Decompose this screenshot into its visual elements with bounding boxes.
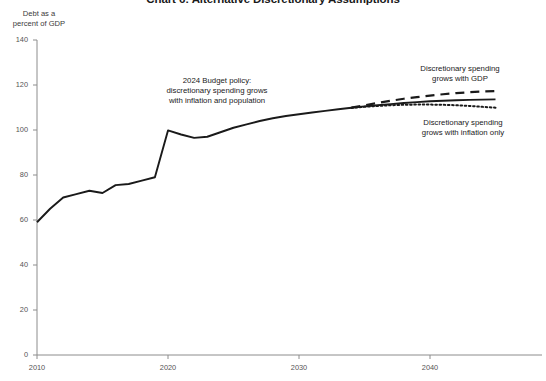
annotation-inflation: Discretionary spending grows with inflat… bbox=[388, 118, 538, 138]
y-tick-label: 100 bbox=[2, 125, 28, 134]
annotation-budget-policy: 2024 Budget policy: discretionary spendi… bbox=[122, 76, 312, 107]
annotation-budget-policy-line2: discretionary spending grows bbox=[122, 86, 312, 96]
annotation-gdp-line2: grows with GDP bbox=[392, 74, 528, 84]
y-tick-label: 0 bbox=[2, 350, 28, 359]
x-tick-label: 2040 bbox=[405, 363, 455, 372]
y-tick-label: 80 bbox=[2, 170, 28, 179]
annotation-inflation-line2: grows with inflation only bbox=[388, 128, 538, 138]
y-tick-label: 40 bbox=[2, 260, 28, 269]
x-tick-label: 2030 bbox=[274, 363, 324, 372]
y-tick-label: 140 bbox=[2, 35, 28, 44]
annotation-budget-policy-line3: with inflation and population bbox=[122, 96, 312, 106]
chart-svg bbox=[0, 0, 546, 381]
chart-container: Chart 6: Alternative Discretionary Assum… bbox=[0, 0, 546, 381]
x-tick-label: 2010 bbox=[12, 363, 62, 372]
y-tick-label: 60 bbox=[2, 215, 28, 224]
y-tick-label: 120 bbox=[2, 80, 28, 89]
data-series-group bbox=[37, 91, 496, 222]
x-tick-label: 2020 bbox=[143, 363, 193, 372]
y-tick-label: 20 bbox=[2, 305, 28, 314]
annotation-gdp-line1: Discretionary spending bbox=[392, 64, 528, 74]
annotation-budget-policy-line1: 2024 Budget policy: bbox=[122, 76, 312, 86]
annotation-inflation-line1: Discretionary spending bbox=[388, 118, 538, 128]
annotation-gdp: Discretionary spending grows with GDP bbox=[392, 64, 528, 84]
